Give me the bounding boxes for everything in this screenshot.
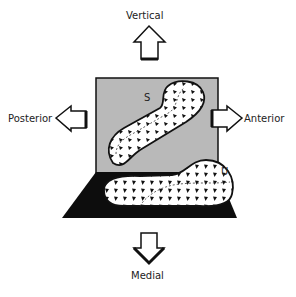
direction-label-posterior: Posterior [8, 113, 52, 124]
arrow-right-icon [212, 106, 242, 131]
diagram-canvas [0, 0, 296, 297]
arrow-left-icon [56, 106, 86, 131]
structure-label-s: S [144, 92, 150, 103]
arrow-down-icon [134, 233, 164, 263]
direction-label-medial: Medial [131, 270, 164, 281]
direction-label-anterior: Anterior [244, 113, 284, 124]
structure-label-u: U [221, 166, 228, 177]
arrow-up-icon [134, 26, 165, 59]
direction-label-vertical: Vertical [126, 10, 163, 21]
vestibular-orientation-diagram: Vertical Posterior Anterior Medial S U [0, 0, 296, 297]
